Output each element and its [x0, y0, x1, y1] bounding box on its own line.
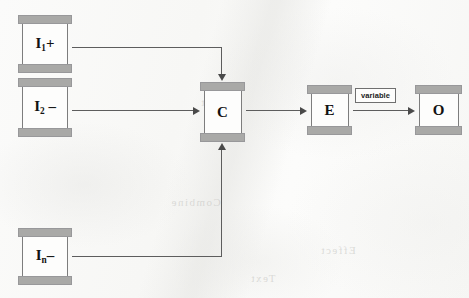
node-c[interactable]: C [200, 82, 245, 142]
node-o-label: O [433, 103, 445, 118]
ghost-text-3: Effect [320, 244, 356, 256]
node-c-body: C [204, 91, 242, 133]
edge-i1-to-c-horizontal [72, 47, 222, 48]
node-c-bottom-cap [200, 133, 245, 142]
node-e-top-cap [307, 85, 352, 94]
node-i2-bottom-cap [18, 128, 72, 137]
ghost-text-1: Combine [170, 196, 221, 208]
node-e-bottom-cap [307, 126, 352, 135]
node-i2[interactable]: I2 – [18, 78, 72, 137]
edge-c-to-e-horizontal [246, 110, 300, 111]
node-e-body: E [311, 94, 349, 126]
node-i1-body: I1+ [22, 24, 68, 64]
node-in-bottom-cap [18, 276, 72, 285]
node-in-body: In– [22, 237, 68, 276]
node-in-top-cap [18, 228, 72, 237]
node-o[interactable]: O [415, 85, 462, 135]
node-c-top-cap [200, 82, 245, 91]
edge-e-to-o-arrowhead [408, 107, 415, 115]
node-i1-bottom-cap [18, 64, 72, 73]
node-o-top-cap [415, 85, 462, 94]
edge-e-to-o-horizontal [353, 110, 408, 111]
node-o-body: O [419, 94, 459, 126]
node-i2-body: I2 – [22, 87, 68, 128]
node-i1-top-cap [18, 15, 72, 24]
node-i2-top-cap [18, 78, 72, 87]
edge-in-to-c-horizontal [72, 256, 222, 257]
node-in-label: In– [36, 248, 55, 265]
node-i1-label: I1+ [35, 36, 54, 53]
node-e[interactable]: E [307, 85, 352, 135]
edge-i1-to-c-arrowhead [218, 74, 226, 81]
node-in[interactable]: In– [18, 228, 72, 285]
edge-i1-to-c-vertical [221, 47, 222, 75]
edge-in-to-c-arrowhead [218, 143, 226, 150]
edge-label-variable[interactable]: variable [355, 88, 396, 103]
edge-i2-to-c-horizontal [72, 110, 193, 111]
edge-in-to-c-vertical [221, 150, 222, 256]
node-i1[interactable]: I1+ [18, 15, 72, 73]
diagram-canvas: InputCombineTextEffect I1+ I2 – In– [0, 0, 469, 298]
node-i2-label: I2 – [34, 99, 56, 116]
edge-i2-to-c-arrowhead [193, 107, 200, 115]
node-c-label: C [217, 105, 228, 120]
node-o-bottom-cap [415, 126, 462, 135]
ghost-text-2: Text [250, 272, 275, 284]
node-e-label: E [324, 103, 334, 118]
edge-c-to-e-arrowhead [300, 107, 307, 115]
